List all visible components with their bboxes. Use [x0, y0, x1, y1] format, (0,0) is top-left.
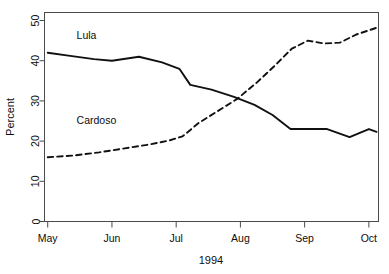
y-tick-label: 50 — [30, 15, 42, 27]
chart-background — [0, 0, 389, 274]
y-tick-label: 40 — [30, 55, 42, 67]
x-tick-label: Aug — [231, 232, 250, 244]
y-tick-label: 10 — [30, 175, 42, 187]
y-axis-title: Percent — [4, 98, 16, 136]
x-tick-label: Sep — [295, 232, 314, 244]
series-label-cardoso: Cardoso — [77, 114, 117, 126]
x-tick-label: Oct — [361, 232, 377, 244]
x-tick-label: Jul — [169, 232, 182, 244]
chart-container: 01020304050 MayJunJulAugSepOct Percent 1… — [0, 0, 389, 274]
y-tick-label: 30 — [30, 95, 42, 107]
y-tick-label: 0 — [30, 218, 42, 224]
series-label-lula: Lula — [77, 29, 97, 41]
x-tick-label: Jun — [103, 232, 120, 244]
y-tick-label: 20 — [30, 135, 42, 147]
x-tick-label: May — [38, 232, 59, 244]
line-chart-svg: 01020304050 MayJunJulAugSepOct Percent 1… — [0, 0, 389, 274]
x-axis-title: 1994 — [199, 254, 223, 266]
